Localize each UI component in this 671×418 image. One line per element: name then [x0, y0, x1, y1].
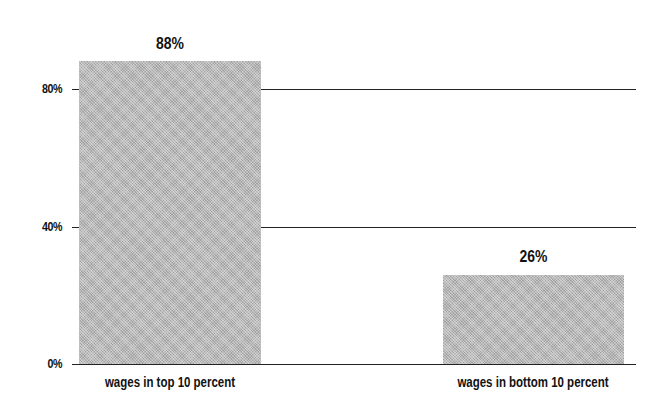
x-axis-baseline [72, 364, 636, 365]
value-label-bottom-10-percent: 26% [459, 247, 607, 267]
bar-top-10-percent [79, 61, 261, 364]
value-label-top-10-percent: 88% [95, 34, 244, 54]
bar-bottom-10-percent [443, 275, 624, 364]
y-tick-label-0: 0% [11, 356, 62, 371]
y-tick-label-40: 40% [11, 219, 62, 234]
y-tick-label-80: 80% [11, 81, 62, 96]
bar-chart: 80% 40% 0% 88% 26% wages in top 10 perce… [0, 0, 671, 418]
category-label-top-10-percent: wages in top 10 percent [80, 374, 260, 390]
category-label-bottom-10-percent: wages in bottom 10 percent [440, 374, 625, 390]
